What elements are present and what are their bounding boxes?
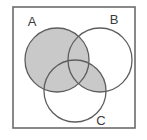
- venn-diagram-figure: A B C: [0, 0, 147, 140]
- set-label-a: A: [28, 14, 37, 29]
- set-label-b: B: [110, 12, 119, 27]
- set-label-c: C: [96, 113, 105, 128]
- venn-diagram-canvas: A B C: [0, 0, 147, 140]
